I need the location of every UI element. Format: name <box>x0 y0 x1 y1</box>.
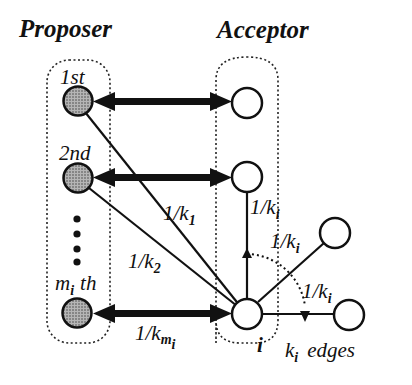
node-i-label: i <box>257 333 263 357</box>
label-mi-th: mith <box>55 271 96 298</box>
proposer-acceptor-diagram: Proposer Acceptor <box>0 0 412 385</box>
vertical-ellipsis-icon <box>73 215 80 265</box>
proposer-node-2nd <box>64 164 93 193</box>
double-arrow-2nd <box>93 168 232 187</box>
label-1st: 1st <box>60 65 86 89</box>
edges-caption: kiedges <box>285 338 355 365</box>
weight-label-k1: 1/k1 <box>163 201 196 228</box>
label-2nd: 2nd <box>59 141 91 165</box>
weight-label-kmi: 1/kmi <box>135 321 176 352</box>
weight-label-ki-up: 1/ki <box>250 195 280 222</box>
acceptor-title: Acceptor <box>215 16 309 43</box>
proposer-title: Proposer <box>18 15 112 42</box>
double-arrow-1st <box>93 92 232 111</box>
acceptor-node-i <box>232 299 262 329</box>
rotation-arc <box>247 254 305 306</box>
arc-arrow-down-icon <box>300 311 310 322</box>
proposer-node-1st <box>64 87 93 116</box>
acceptor-node-2 <box>232 162 262 192</box>
arc-arrow-up-icon <box>242 248 252 258</box>
acceptor-node-1 <box>232 88 262 118</box>
weight-label-k2: 1/k2 <box>128 249 161 276</box>
weight-label-ki-right: 1/ki <box>302 279 332 306</box>
neighbor-node-right <box>334 300 364 330</box>
double-arrow-mi <box>93 304 232 323</box>
neighbor-node-upper-right <box>320 218 350 248</box>
weight-label-ki-diag: 1/ki <box>270 229 300 256</box>
proposer-node-mi <box>63 299 92 328</box>
